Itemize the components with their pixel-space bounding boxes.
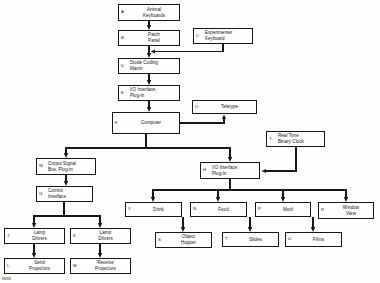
node-p-motrl[interactable]: P Motrl (255, 202, 311, 217)
connector-f-trunk (66, 134, 146, 156)
node-j-lamp-drivers[interactable]: J Lamp Drivers (4, 228, 65, 244)
node-d-diode-coding-matrix[interactable]: D Diode Coding Matrix (118, 58, 180, 74)
connector-y-to-h (264, 147, 296, 171)
node-w-output-signal-bus-plugin[interactable]: W Output Signal Bus, Plug-in (36, 158, 96, 175)
node-tag: O (195, 105, 204, 109)
node-label: Control Interface (48, 188, 91, 200)
node-tag: T (225, 237, 234, 241)
block-diagram-canvas: A Animal Keyboards B Patch Panel C Exper… (0, 0, 380, 283)
node-label: I/O Interface, Plug-in (212, 165, 258, 177)
connector-g-trunk (34, 202, 64, 226)
connector-h-bus-right (230, 190, 346, 200)
node-c-experimenter-keyboard[interactable]: C Experimenter Keyboard (193, 28, 253, 44)
node-label: Output Signal Bus, Plug-in (48, 161, 94, 173)
node-m-receive-projectors[interactable]: M 'Receive' Projectors (70, 258, 131, 274)
node-label: Object Hopper (167, 234, 210, 246)
node-s-object-hopper[interactable]: S Object Hopper (155, 232, 212, 248)
node-tag: P (258, 207, 267, 211)
connector-f-to-h (146, 148, 230, 160)
node-tag: D (121, 64, 130, 68)
node-o-teletype[interactable]: O Teletype (192, 100, 257, 114)
node-h-io-interface-plugin[interactable]: H I/O Interface, Plug-in (200, 162, 260, 179)
node-label: Drink (137, 207, 180, 213)
node-tag: Y (269, 137, 278, 141)
node-label: Real Time Binary Clock (278, 133, 323, 145)
node-label: 'Receive' Projectors (82, 260, 129, 272)
node-tag: K (73, 234, 82, 238)
node-label: Lamp Drivers (82, 230, 129, 242)
node-a-animal-keyboards[interactable]: A Animal Keyboards (118, 4, 180, 21)
node-tag: V (128, 207, 137, 211)
node-g-control-interface[interactable]: G Control Interface (36, 186, 93, 202)
node-tag: S (158, 238, 167, 242)
node-u-films[interactable]: U Films (285, 232, 342, 247)
node-tag: G (39, 192, 48, 196)
node-e-io-interface-plugin[interactable]: E I/O Interface, Plug-in (118, 85, 180, 101)
node-tag: C (196, 34, 205, 38)
node-tag: F (115, 121, 124, 125)
node-tag: R (321, 208, 330, 212)
node-tag: U (288, 237, 297, 241)
node-label: Motrl (267, 207, 309, 213)
node-r-window-view[interactable]: R Window View (318, 202, 374, 219)
node-label: Food (202, 207, 245, 213)
node-v-drink[interactable]: V Drink (125, 202, 182, 217)
connector-f-to-o (180, 117, 224, 123)
node-tag: H (203, 168, 212, 172)
node-tag: E (121, 91, 130, 95)
node-label: Computer (124, 120, 178, 126)
node-label: Films (297, 237, 340, 243)
node-tag: W (39, 164, 48, 168)
node-n-food[interactable]: N Food (190, 202, 247, 217)
node-tag: L (7, 264, 16, 268)
node-f-computer[interactable]: F Computer (112, 112, 180, 134)
node-b-patch-panel[interactable]: B Patch Panel (118, 30, 180, 46)
node-label: Animal Keyboards (130, 7, 178, 19)
node-tag: N (193, 207, 202, 211)
node-t-slides[interactable]: T Slides (222, 232, 279, 247)
connector-g-to-k (64, 216, 100, 226)
scan-artifact (2, 277, 11, 280)
node-label: Teletype (204, 104, 255, 110)
node-y-real-time-binary-clock[interactable]: Y Real Time Binary Clock (266, 131, 325, 147)
node-label: Window View (330, 205, 372, 217)
node-label: Lamp Drivers (16, 230, 63, 242)
node-label: Slides (234, 237, 277, 243)
node-label: I/O Interface, Plug-in (130, 87, 178, 99)
node-label: Send Projectors (16, 260, 63, 272)
node-tag: B (121, 36, 130, 40)
node-tag: M (73, 264, 82, 268)
node-tag: A (121, 10, 130, 14)
node-k-lamp-drivers[interactable]: K Lamp Drivers (70, 228, 131, 244)
node-l-send-projectors[interactable]: L Send Projectors (4, 258, 65, 274)
node-label: Diode Coding Matrix (130, 60, 178, 72)
node-tag: J (7, 234, 16, 238)
node-label: Experimenter Keyboard (205, 30, 251, 42)
node-label: Patch Panel (130, 32, 178, 44)
